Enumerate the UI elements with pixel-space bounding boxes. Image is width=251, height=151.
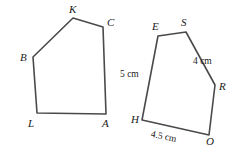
vertex-label-h: H bbox=[131, 114, 139, 125]
vertex-label-r: R bbox=[219, 81, 226, 92]
pentagon-bkcal-shape bbox=[33, 18, 106, 114]
vertex-label-a: A bbox=[102, 118, 109, 129]
vertex-label-l: L bbox=[28, 118, 34, 129]
side-measure-sr: 4 cm bbox=[193, 56, 212, 66]
geometry-figure-canvas: B K C A L E S R O H 4 cm 5 cm 4.5 cm bbox=[0, 0, 251, 151]
vertex-label-c: C bbox=[107, 17, 114, 28]
vertex-label-o: O bbox=[206, 136, 214, 147]
vertex-label-b: B bbox=[20, 52, 27, 63]
vertex-label-e: E bbox=[152, 21, 159, 32]
vertex-label-s: S bbox=[181, 17, 187, 28]
pentagon-eshro-shape bbox=[142, 32, 215, 135]
side-measure-he: 5 cm bbox=[120, 69, 139, 79]
vertex-label-k: K bbox=[69, 4, 76, 15]
